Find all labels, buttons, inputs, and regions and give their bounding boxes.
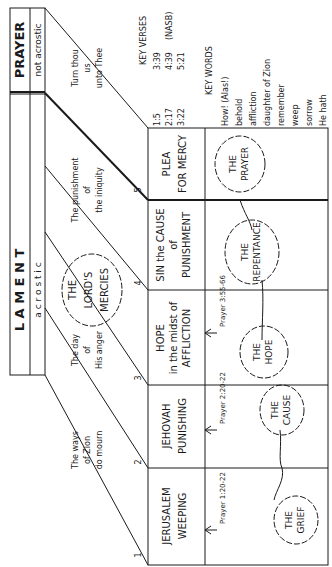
- svg-text:of: of: [83, 186, 92, 194]
- svg-text:The day: The day: [71, 334, 80, 367]
- svg-text:unto Thee: unto Thee: [95, 48, 104, 89]
- svg-text:5:21: 5:21: [177, 52, 186, 70]
- lament-subtitle: a c r o s t i c: [33, 262, 43, 317]
- chapter-number: 3: [134, 375, 143, 380]
- svg-text:(NASB): (NASB): [165, 12, 174, 40]
- svg-text:4:39: 4:39: [165, 52, 174, 70]
- lamentations-chart: L A M E N T PRAYER a c r o s t i c not a…: [0, 0, 332, 567]
- svg-text:do mourn: do mourn: [95, 431, 104, 470]
- chapter-title: JERUSALEM: [161, 487, 172, 545]
- svg-text:PUNISHING: PUNISHING: [177, 398, 188, 454]
- svg-text:3:39: 3:39: [153, 52, 162, 70]
- svg-text:THE: THE: [284, 511, 294, 530]
- svg-text:His anger: His anger: [95, 330, 104, 369]
- svg-text:of: of: [168, 240, 179, 250]
- svg-text:in the midst of: in the midst of: [168, 301, 179, 374]
- svg-text:THE: THE: [228, 155, 238, 174]
- svg-text:3:22: 3:22: [177, 108, 186, 126]
- svg-text:the iniquity: the iniquity: [95, 167, 104, 213]
- chapter-number: 2: [134, 459, 143, 464]
- prayer-reference: Prayer 2:20-22: [219, 372, 227, 424]
- prayer-reference: Prayer 3:55-66: [219, 274, 227, 327]
- svg-text:1:5: 1:5: [153, 113, 162, 126]
- chapter-number: 4: [134, 280, 143, 285]
- svg-text:of Zion: of Zion: [83, 436, 92, 464]
- svg-text:The punishment: The punishment: [71, 157, 80, 223]
- svg-text:THE: THE: [240, 243, 250, 262]
- svg-text:AFFLICTION: AFFLICTION: [181, 309, 192, 367]
- svg-text:weep: weep: [291, 105, 300, 126]
- key-words-title: KEY WORDS: [205, 46, 214, 95]
- lament-title: L A M E N T: [12, 249, 27, 332]
- svg-text:2:17: 2:17: [165, 108, 174, 126]
- chapter-title: PLEA: [161, 151, 172, 176]
- svg-text:Turn thou: Turn thou: [71, 49, 80, 88]
- prayer-title: PRAYER: [12, 22, 27, 79]
- arrow-icon: [205, 329, 217, 337]
- svg-text:He hath: He hath: [319, 94, 328, 126]
- svg-text:THE: THE: [67, 280, 78, 301]
- svg-text:us: us: [83, 63, 92, 72]
- svg-text:HOPE: HOPE: [264, 339, 274, 364]
- arrow-icon: [205, 426, 217, 434]
- chapter-number: 1: [134, 552, 143, 557]
- svg-text:MERCIES: MERCIES: [99, 268, 110, 312]
- svg-text:PRAYER: PRAYER: [240, 147, 250, 181]
- svg-text:behold: behold: [235, 99, 244, 126]
- svg-text:sorrow: sorrow: [305, 99, 314, 126]
- svg-text:affliction: affliction: [249, 91, 258, 126]
- svg-text:GRIEF: GRIEF: [296, 507, 306, 534]
- svg-text:PUNISHMENT: PUNISHMENT: [181, 211, 192, 278]
- svg-text:remember: remember: [277, 83, 286, 126]
- svg-text:LORD'S: LORD'S: [83, 272, 94, 309]
- chapter-number: 5: [134, 187, 143, 192]
- svg-text:How! (Alas!): How! (Alas!): [221, 77, 230, 126]
- arrow-icon: [205, 526, 217, 534]
- prayer-subtitle: not acrostic: [33, 24, 43, 77]
- svg-text:CAUSE: CAUSE: [282, 394, 292, 425]
- chart-canvas: L A M E N T PRAYER a c r o s t i c not a…: [0, 0, 332, 567]
- svg-text:THE: THE: [252, 343, 262, 362]
- svg-text:The ways: The ways: [71, 431, 80, 470]
- key-verses-title: KEY VERSES: [139, 16, 148, 65]
- svg-text:WEEPING: WEEPING: [177, 493, 188, 540]
- svg-text:THE: THE: [270, 401, 280, 420]
- prayer-reference: Prayer 1:20-22: [219, 472, 227, 524]
- chapter-title: HOPE: [155, 324, 166, 352]
- svg-text:of: of: [83, 346, 92, 354]
- svg-text:FOR MERCY: FOR MERCY: [177, 134, 188, 193]
- chapter-title: SIN the CAUSE: [155, 208, 166, 281]
- svg-text:REPENTANCE: REPENTANCE: [252, 222, 262, 282]
- svg-text:daughter of Zion: daughter of Zion: [263, 59, 272, 126]
- chapter-title: JEHOVAH: [161, 403, 172, 449]
